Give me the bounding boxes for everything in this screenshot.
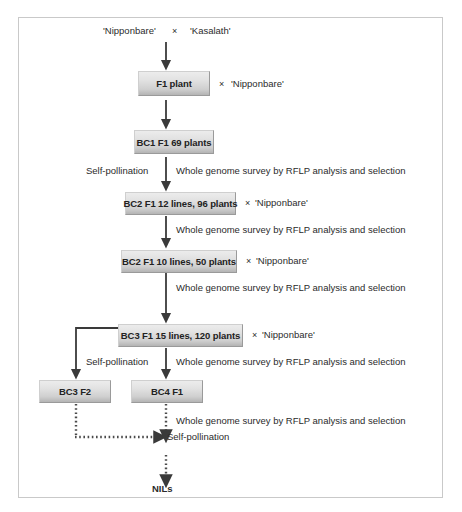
diagram-canvas: 'Nipponbare' × 'Kasalath' F1 plant BC1 F… (0, 0, 462, 512)
cross-symbol-bc2-12: × (245, 198, 250, 208)
annotation-rflp-3: Whole genome survey by RFLP analysis and… (176, 282, 406, 293)
annotation-rflp-1: Whole genome survey by RFLP analysis and… (176, 165, 406, 176)
node-bc2-f1-12lines[interactable]: BC2 F1 12 lines, 96 plants (125, 192, 236, 215)
annotation-self-pollination-3: Self-pollination (167, 431, 229, 442)
breeding-scheme-figure: 'Nipponbare' × 'Kasalath' F1 plant BC1 F… (0, 0, 462, 512)
recurrent-parent-bc2-12: 'Nipponbare' (255, 197, 308, 208)
annotation-self-pollination-1: Self-pollination (86, 165, 148, 176)
cross-symbol-top: × (172, 26, 177, 36)
elbow-bc3-to-bc3f2 (76, 328, 124, 374)
annotation-rflp-2: Whole genome survey by RFLP analysis and… (176, 224, 406, 235)
node-bc3-f1-15lines[interactable]: BC3 F1 15 lines, 120 plants (118, 324, 243, 347)
annotation-rflp-5: Whole genome survey by RFLP analysis and… (176, 415, 406, 426)
annotation-rflp-4: Whole genome survey by RFLP analysis and… (176, 356, 406, 367)
node-bc4-f1[interactable]: BC4 F1 (131, 380, 203, 403)
cross-symbol-bc3-15: × (252, 330, 257, 340)
parent-male-label: 'Kasalath' (190, 25, 231, 36)
parent-female-label: 'Nipponbare' (103, 25, 156, 36)
cross-symbol-f1: × (219, 79, 224, 89)
node-bc1-f1[interactable]: BC1 F1 69 plants (134, 130, 214, 154)
recurrent-parent-bc2-10: 'Nipponbare' (256, 255, 309, 266)
node-f1-plant[interactable]: F1 plant (138, 71, 210, 96)
node-bc2-f1-10lines[interactable]: BC2 F1 10 lines, 50 plants (121, 250, 237, 273)
recurrent-parent-f1: 'Nipponbare' (231, 78, 284, 89)
recurrent-parent-bc3-15: 'Nipponbare' (262, 329, 315, 340)
cross-symbol-bc2-10: × (246, 256, 251, 266)
node-bc3-f2[interactable]: BC3 F2 (39, 380, 111, 403)
annotation-self-pollination-2: Self-pollination (86, 356, 148, 367)
node-nils: NILs (152, 483, 173, 494)
